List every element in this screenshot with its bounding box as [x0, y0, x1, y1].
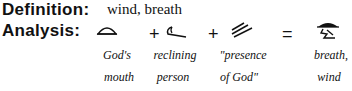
equals-operator: = — [282, 24, 293, 45]
breath-wind-glyph-icon — [315, 21, 341, 43]
caption-breath-1: breath, — [296, 48, 352, 63]
caption-breath-2: wind — [294, 70, 352, 85]
mouth-glyph-icon — [96, 22, 118, 41]
caption-person-2: person — [138, 70, 208, 85]
caption-presence-1: "presence — [208, 48, 278, 63]
reclining-person-glyph-icon — [164, 24, 190, 43]
analysis-label: Analysis: — [2, 21, 80, 41]
triple-lines-glyph-icon — [228, 22, 254, 42]
plus-operator: + — [149, 24, 160, 45]
definition-label: Definition: — [2, 0, 89, 20]
caption-presence-2: of God" — [204, 70, 274, 85]
plus-operator: + — [208, 24, 219, 45]
definition-value: wind, breath — [107, 1, 182, 18]
caption-person-1: reclining — [140, 48, 210, 63]
